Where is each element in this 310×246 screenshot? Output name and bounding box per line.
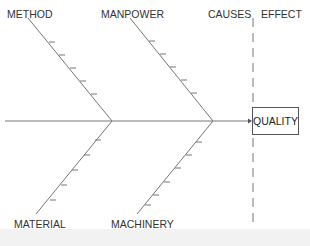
causes-label: CAUSES: [208, 8, 251, 20]
category-label-machinery: MACHINERY: [111, 218, 174, 230]
branch-method: [28, 18, 112, 121]
category-label-manpower: MANPOWER: [101, 8, 164, 20]
effect-label: EFFECT: [261, 8, 302, 20]
diagram-canvas: METHOD MANPOWER MATERIAL MACHINERY CAUSE…: [0, 0, 310, 229]
effect-label-quality: QUALITY: [253, 115, 298, 127]
category-label-method: METHOD: [7, 8, 53, 20]
effect-box: QUALITY: [252, 107, 299, 135]
category-label-material: MATERIAL: [14, 218, 66, 230]
branch-manpower: [130, 18, 213, 121]
branch-material: [36, 121, 112, 214]
